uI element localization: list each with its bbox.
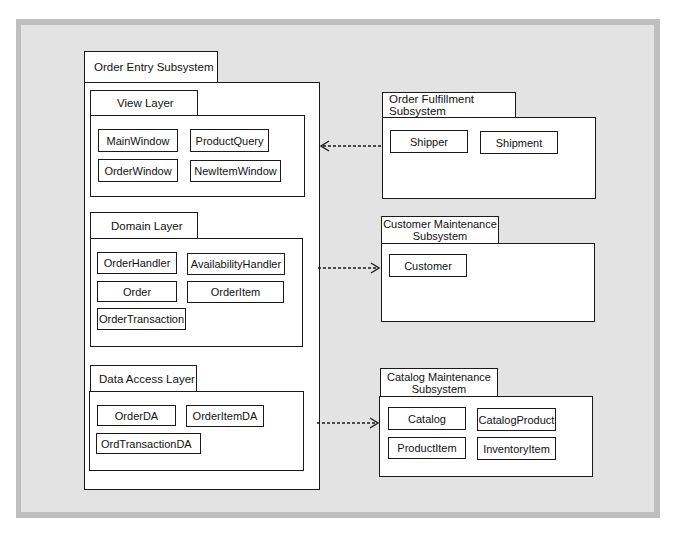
dependency-arrow-dataaccess-to-catalog: [317, 418, 378, 428]
dependency-arrows: [0, 0, 677, 537]
dependency-arrow-domain-to-customer: [318, 263, 379, 273]
dependency-arrow-fulfillment-to-view: [321, 141, 381, 151]
